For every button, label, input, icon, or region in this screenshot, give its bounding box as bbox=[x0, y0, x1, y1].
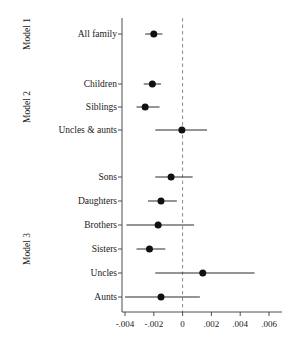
category-label: Daughters bbox=[78, 196, 117, 206]
estimate-point-marker bbox=[146, 246, 153, 253]
category-label: Children bbox=[84, 79, 117, 89]
x-axis-tick-label: .004 bbox=[232, 319, 248, 329]
estimate-point-marker bbox=[199, 270, 206, 277]
estimate-point-marker bbox=[155, 222, 162, 229]
x-axis-tick-label: .002 bbox=[204, 319, 220, 329]
model-group-label: Model 1 bbox=[22, 18, 32, 50]
x-axis-tick-label: 0 bbox=[180, 319, 185, 329]
category-label: Uncles bbox=[91, 268, 118, 278]
forest-plot-figure: -.004-.0020.002.004.006All familyChildre… bbox=[0, 0, 290, 347]
estimate-point-marker bbox=[178, 127, 185, 134]
x-axis-tick-label: -.004 bbox=[116, 319, 135, 329]
estimate-point-marker bbox=[158, 198, 165, 205]
category-label: Brothers bbox=[84, 220, 117, 230]
category-label: All family bbox=[78, 29, 118, 39]
category-label: Aunts bbox=[94, 292, 117, 302]
model-group-label: Model 2 bbox=[22, 91, 32, 123]
category-label: Siblings bbox=[86, 102, 117, 112]
estimate-point-marker bbox=[150, 31, 157, 38]
estimate-point-marker bbox=[142, 104, 149, 111]
x-axis-tick-label: .006 bbox=[261, 319, 277, 329]
model-group-label: Model 3 bbox=[22, 233, 32, 265]
estimate-point-marker bbox=[168, 174, 175, 181]
category-label: Sons bbox=[99, 172, 118, 182]
estimate-point-marker bbox=[158, 294, 165, 301]
estimate-point-marker bbox=[149, 81, 156, 88]
category-label: Uncles & aunts bbox=[58, 125, 117, 135]
x-axis-tick-label: -.002 bbox=[144, 319, 163, 329]
category-label: Sisters bbox=[92, 244, 118, 254]
